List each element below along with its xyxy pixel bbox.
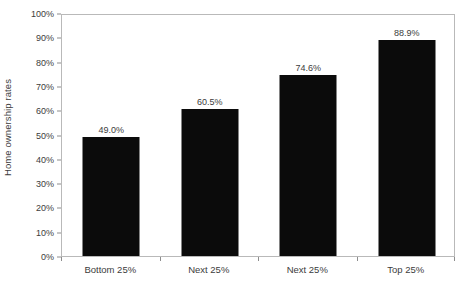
y-axis-tick-label: 0%: [41, 252, 54, 262]
x-axis-tick-mark: [160, 257, 161, 261]
x-axis-tick-mark: [454, 257, 455, 261]
x-axis-category-label: Top 25%: [387, 264, 424, 275]
y-axis-tick-label: 20%: [36, 203, 54, 213]
bar-group: 74.6%: [259, 15, 358, 256]
x-axis-ticks: [61, 257, 455, 263]
x-axis-tick-labels: Bottom 25%Next 25%Next 25%Top 25%: [61, 264, 455, 282]
bar-value-label: 60.5%: [197, 97, 223, 107]
bar: [83, 137, 140, 256]
y-axis-tick-label: 60%: [36, 106, 54, 116]
y-axis-tick-label: 10%: [36, 228, 54, 238]
bar-value-label: 49.0%: [98, 125, 124, 135]
y-axis-title: Home ownership rates: [0, 0, 16, 255]
bar: [280, 75, 337, 256]
y-axis-title-label: Home ownership rates: [3, 79, 14, 176]
y-axis-tick-label: 30%: [36, 179, 54, 189]
x-axis-tick-mark: [258, 257, 259, 261]
y-axis-tick-label: 100%: [31, 9, 54, 19]
y-axis-tick-label: 90%: [36, 33, 54, 43]
plot-area: 49.0%60.5%74.6%88.9%: [61, 14, 455, 257]
y-axis-tick-labels: 0%10%20%30%40%50%60%70%80%90%100%: [18, 14, 58, 257]
bar-value-label: 88.9%: [394, 28, 420, 38]
bar-group: 60.5%: [161, 15, 260, 256]
bar-group: 88.9%: [358, 15, 457, 256]
x-axis-category-label: Bottom 25%: [84, 264, 136, 275]
bar-group: 49.0%: [62, 15, 161, 256]
x-axis-tick-mark: [61, 257, 62, 261]
y-axis-tick-label: 40%: [36, 155, 54, 165]
y-axis-tick-label: 50%: [36, 131, 54, 141]
bar: [378, 40, 435, 256]
x-axis-category-label: Next 25%: [287, 264, 328, 275]
bar-value-label: 74.6%: [295, 63, 321, 73]
bar-chart: Home ownership rates 0%10%20%30%40%50%60…: [0, 0, 469, 286]
y-axis-tick-label: 70%: [36, 82, 54, 92]
y-axis-tick-label: 80%: [36, 58, 54, 68]
bar: [181, 109, 238, 256]
x-axis-category-label: Next 25%: [188, 264, 229, 275]
x-axis-tick-mark: [357, 257, 358, 261]
